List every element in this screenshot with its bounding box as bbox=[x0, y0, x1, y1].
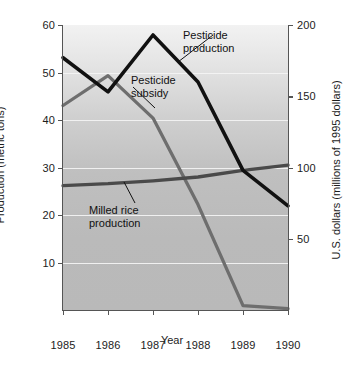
tick-right-200 bbox=[288, 25, 293, 26]
tick-x-1989 bbox=[243, 310, 244, 315]
tick-x-1985 bbox=[63, 310, 64, 315]
tick-left-40 bbox=[58, 120, 63, 121]
tick-right-50 bbox=[288, 239, 293, 240]
y-axis-right-title: U.S. dollars (millions of 1995 dollars) bbox=[330, 80, 342, 259]
y-left-label-60: 60 bbox=[25, 19, 55, 31]
y-axis-left-title: Production (metric tons) bbox=[0, 107, 6, 224]
tick-x-1986 bbox=[108, 310, 109, 315]
x-label-1988: 1988 bbox=[186, 339, 211, 351]
y-left-label-30: 30 bbox=[25, 162, 55, 174]
annotation-milled-rice-line1: Milled rice bbox=[89, 204, 140, 217]
tick-x-1988 bbox=[198, 310, 199, 315]
x-axis-title: Year bbox=[161, 334, 183, 346]
x-label-1986: 1986 bbox=[96, 339, 121, 351]
annotation-pesticide-subsidy: Pesticide subsidy bbox=[131, 74, 176, 99]
annotation-pesticide-subsidy-line2: subsidy bbox=[131, 87, 176, 100]
annotation-pesticide-production: Pesticide production bbox=[183, 29, 234, 54]
tick-left-30 bbox=[58, 168, 63, 169]
annotation-pesticide-subsidy-line1: Pesticide bbox=[131, 74, 176, 87]
y-right-label-200: 200 bbox=[297, 19, 316, 31]
y-right-label-100: 100 bbox=[297, 162, 316, 174]
x-label-1989: 1989 bbox=[231, 339, 256, 351]
tick-x-1990 bbox=[288, 310, 289, 315]
y-left-label-40: 40 bbox=[25, 114, 55, 126]
annotation-pesticide-production-line1: Pesticide bbox=[183, 29, 234, 42]
y-left-label-50: 50 bbox=[25, 67, 55, 79]
tick-left-60 bbox=[58, 25, 63, 26]
y-right-label-150: 150 bbox=[297, 90, 316, 102]
annotation-milled-rice-line2: production bbox=[89, 217, 140, 230]
x-label-1985: 1985 bbox=[51, 339, 76, 351]
tick-x-1987 bbox=[153, 310, 154, 315]
y-axis-left-ticks: 60 50 40 30 20 10 200 150 100 50 1985 19… bbox=[63, 25, 288, 310]
y-right-label-50: 50 bbox=[297, 233, 309, 245]
annotation-milled-rice-production: Milled rice production bbox=[89, 204, 140, 229]
tick-right-100 bbox=[288, 168, 293, 169]
y-left-label-10: 10 bbox=[25, 257, 55, 269]
annotation-pesticide-production-line2: production bbox=[183, 42, 234, 55]
x-axis-line bbox=[62, 310, 289, 311]
x-label-1990: 1990 bbox=[276, 339, 301, 351]
tick-left-20 bbox=[58, 215, 63, 216]
tick-right-150 bbox=[288, 96, 293, 97]
tick-left-10 bbox=[58, 263, 63, 264]
y-left-label-20: 20 bbox=[25, 209, 55, 221]
chart-figure: 60 50 40 30 20 10 200 150 100 50 1985 19… bbox=[0, 0, 345, 367]
tick-left-50 bbox=[58, 73, 63, 74]
